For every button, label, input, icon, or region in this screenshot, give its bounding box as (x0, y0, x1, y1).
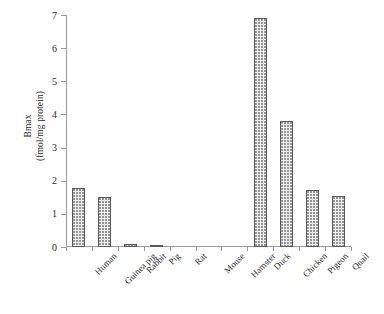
y-axis-tick: 6 (61, 48, 66, 49)
x-axis-label-quail: Quail (350, 251, 371, 272)
y-axis-tick: 1 (61, 214, 66, 215)
y-axis-tick-label: 4 (52, 110, 57, 120)
y-axis-tick-label: 2 (52, 176, 57, 186)
y-axis-title: Bmax (fmol/mg protein) (14, 56, 54, 196)
x-axis-label-chicken: Chicken (301, 251, 329, 279)
y-axis-tick-label: 3 (52, 143, 57, 153)
y-axis-tick: 4 (61, 114, 66, 115)
y-axis-title-line-1: Bmax (22, 91, 34, 161)
x-axis-label-mouse: Mouse (222, 251, 246, 275)
y-axis-tick: 3 (61, 148, 66, 149)
bar-quail (332, 196, 345, 247)
x-axis-label-human: Human (93, 251, 119, 277)
y-axis-tick-label: 0 (52, 243, 57, 253)
y-axis-tick: 5 (61, 81, 66, 82)
x-axis-labels: HumanGuinea pigRabbitPigRatMouseHamsterD… (66, 251, 351, 311)
y-axis-line (66, 15, 67, 247)
x-axis-tick (351, 247, 352, 251)
bar-pigeon (306, 190, 319, 247)
y-axis-tick-label: 1 (52, 209, 57, 219)
bar-chicken (280, 121, 293, 247)
chart-figure: Bmax (fmol/mg protein) 01234567 HumanGui… (0, 0, 384, 314)
plot-area: 01234567 (66, 15, 351, 247)
bar-human (72, 188, 85, 247)
y-axis-tick: 7 (61, 15, 66, 16)
bar-rabbit (124, 244, 137, 247)
y-axis-tick-label: 7 (52, 11, 57, 21)
y-axis-tick-label: 6 (52, 44, 57, 54)
y-axis-tick: 2 (61, 181, 66, 182)
y-axis-tick-label: 5 (52, 77, 57, 87)
x-axis-label-duck: Duck (272, 251, 293, 272)
y-axis-title-line-2: (fmol/mg protein) (34, 91, 46, 161)
bar-duck (254, 18, 267, 247)
bar-guinea-pig (98, 197, 111, 247)
x-axis-label-pigeon: Pigeon (325, 251, 350, 276)
bar-pig (150, 245, 163, 247)
x-axis-label-rat: Rat (192, 251, 208, 267)
x-axis-label-pig: Pig (166, 251, 182, 267)
